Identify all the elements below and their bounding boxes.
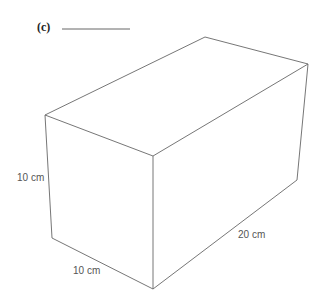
prism-diagram: (c) 10 cm 10 cm 20 cm (0, 0, 314, 302)
width-label: 10 cm (73, 265, 100, 276)
length-label: 20 cm (238, 229, 265, 240)
prism-edges (45, 37, 308, 289)
height-label: 10 cm (17, 172, 44, 183)
part-label: (c) (37, 20, 50, 34)
